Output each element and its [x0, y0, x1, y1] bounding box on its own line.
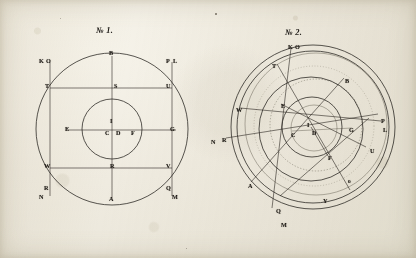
label2-k: K — [288, 44, 293, 50]
label-c: C — [105, 130, 110, 136]
label-g: G — [170, 126, 175, 132]
label-w: W — [44, 163, 50, 169]
label-i: I — [110, 118, 113, 124]
label-r: R — [110, 163, 115, 169]
label2-f: F — [328, 155, 332, 161]
fig2-diagonal-rp — [226, 114, 378, 138]
label2-y: Y — [323, 198, 328, 204]
label2-e: E — [281, 103, 285, 109]
label-u: U — [166, 83, 171, 89]
label-a: A — [109, 196, 114, 202]
label2-i: I — [307, 122, 310, 128]
fig2-circles — [231, 45, 395, 209]
label2-q: Q — [276, 208, 281, 214]
fig2-diagonal-ba — [251, 78, 344, 182]
label2-w: W — [236, 107, 242, 113]
label-p: P — [166, 58, 170, 64]
label-k: K — [39, 58, 44, 64]
fig2-dotted-circle-2 — [254, 66, 374, 186]
figure-1-title: № 1. — [96, 26, 113, 35]
label2-o: O — [295, 44, 300, 50]
label-t: T — [45, 83, 49, 89]
label-m: M — [172, 194, 178, 200]
figure-2-title: № 2. — [285, 28, 302, 37]
fig2-outermost-circle — [231, 45, 395, 209]
label-q: Q — [166, 185, 171, 191]
fig2-diagonal-ty — [277, 64, 350, 190]
engraving-plate: № 1. № 2. BKOPLTSUEICDFGWRVRNQMA KOTBWEP… — [0, 0, 416, 258]
label2-l: L — [383, 127, 387, 133]
label-v: V — [166, 163, 171, 169]
label2-b: B — [345, 78, 349, 84]
label-e: E — [65, 126, 69, 132]
label-d: D — [116, 130, 121, 136]
label-l: L — [173, 58, 177, 64]
fig2-diagonal-qo — [280, 118, 369, 196]
label-b: B — [109, 50, 113, 56]
label2-a: A — [248, 183, 253, 189]
fig2-radius-cg — [292, 128, 352, 131]
label2-d: D — [312, 130, 317, 136]
label2-r: R — [222, 137, 227, 143]
label2-t: T — [272, 63, 276, 69]
label-f: F — [131, 130, 135, 136]
label2-u: U — [370, 148, 375, 154]
label-n: N — [39, 194, 44, 200]
label-o: O — [46, 58, 51, 64]
label2-m: M — [281, 222, 287, 228]
label2-o-small: o — [348, 179, 351, 184]
label-r2: R — [44, 185, 49, 191]
label2-p: P — [381, 118, 385, 124]
label2-g: G — [349, 127, 354, 133]
label2-c: C — [291, 132, 296, 138]
label-s: S — [114, 83, 118, 89]
label2-n: N — [211, 139, 216, 145]
fig2-mid-circle — [259, 77, 363, 181]
